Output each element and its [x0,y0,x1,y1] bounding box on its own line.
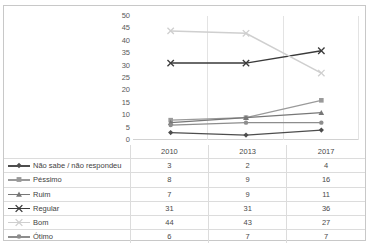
y-axis-tick-label: 40 [100,37,130,45]
table-cell: 9 [209,173,287,187]
table-cell: 31 [209,201,287,215]
legend-item-label: Ótimo [33,232,53,241]
data-table: 201020132017Não sabe / não respondeu324P… [4,145,365,243]
data-table-region: 201020132017Não sabe / não respondeu324P… [4,145,365,240]
table-row: Bom444327 [4,215,365,229]
table-cell: 44 [130,215,208,229]
data-point-marker-circle [319,120,323,124]
legend-item-3[interactable]: Regular [4,201,130,215]
table-cell: 7 [287,230,365,244]
legend-item-label: Regular [33,204,59,213]
legend-item-1[interactable]: Péssimo [4,173,130,187]
table-row: Ótimo677 [4,230,365,244]
legend-item-label: Não sabe / não respondeu [33,161,121,170]
table-cell: 9 [209,187,287,201]
table-cell: 7 [209,230,287,244]
data-point-marker-diamond [16,163,21,168]
legend-item-label: Bom [33,218,48,227]
legend-marker-x-icon [8,204,30,213]
table-cell: 4 [287,159,365,173]
legend-item-label: Ruim [33,190,51,199]
legend-symbol [8,175,30,184]
y-axis-tick-label: 25 [100,74,130,82]
table-column-header: 2017 [287,145,365,159]
y-axis: 05101520253035404550 [100,16,130,140]
legend-symbol [8,161,30,170]
table-header-blank [4,145,130,159]
series-3 [167,48,324,67]
table-cell: 31 [130,201,208,215]
table-cell: 7 [130,187,208,201]
data-point-marker-circle [244,120,248,124]
legend-item-2[interactable]: Ruim [4,187,130,201]
y-axis-tick-label: 30 [100,62,130,70]
table-row: Péssimo8916 [4,173,365,187]
table-column-header: 2013 [209,145,287,159]
y-axis-tick-label: 45 [100,25,130,33]
table-cell: 27 [287,215,365,229]
legend-marker-square-icon [8,175,30,184]
data-point-marker-circle [17,234,22,239]
y-axis-tick-label: 50 [100,12,130,20]
y-axis-tick-label: 20 [100,87,130,95]
y-axis-tick-label: 15 [100,99,130,107]
plot-region: 05101520253035404550 [4,6,365,145]
data-point-marker-diamond [243,132,248,137]
table-cell: 11 [287,187,365,201]
legend-symbol [8,204,30,213]
data-point-marker-circle [168,123,172,127]
series-line [171,31,322,73]
table-row: Regular313136 [4,201,365,215]
data-point-marker-square [17,178,22,183]
data-point-marker-x [16,205,23,212]
chart-frame: 05101520253035404550 201020132017Não sab… [3,5,366,241]
series-0 [168,127,324,137]
data-point-marker-x [16,219,23,226]
legend-marker-x-icon [8,218,30,227]
data-point-marker-square [319,98,324,103]
series-4 [167,28,324,77]
table-cell: 43 [209,215,287,229]
legend-symbol [8,232,30,241]
y-axis-tick-label: 5 [100,124,130,132]
y-axis-tick-label: 0 [100,136,130,144]
data-point-marker-x [318,70,324,76]
table-cell: 8 [130,173,208,187]
legend-item-5[interactable]: Ótimo [4,230,130,244]
legend-item-label: Péssimo [33,175,62,184]
table-row: Não sabe / não respondeu324 [4,159,365,173]
legend-symbol [8,218,30,227]
legend-marker-diamond-icon [8,161,30,170]
data-point-marker-triangle [16,191,22,196]
data-point-marker-diamond [168,130,173,135]
table-header-row: 201020132017 [4,145,365,159]
data-point-marker-diamond [319,127,324,132]
table-cell: 36 [287,201,365,215]
table-cell: 16 [287,173,365,187]
series-lines [133,16,359,140]
table-cell: 2 [209,159,287,173]
legend-marker-triangle-icon [8,190,30,199]
table-cell: 3 [130,159,208,173]
table-row: Ruim7911 [4,187,365,201]
y-axis-tick-label: 10 [100,111,130,119]
legend-symbol [8,190,30,199]
legend-item-0[interactable]: Não sabe / não respondeu [4,159,130,173]
table-column-header: 2010 [130,145,208,159]
legend-marker-circle-icon [8,232,30,241]
y-axis-tick-label: 35 [100,49,130,57]
legend-item-4[interactable]: Bom [4,215,130,229]
table-cell: 6 [130,230,208,244]
